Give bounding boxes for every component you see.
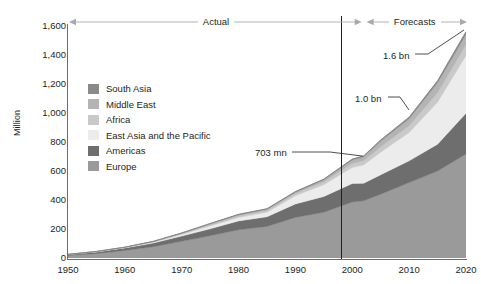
legend-item-africa: Africa	[88, 112, 211, 128]
y-tick-0: 0	[22, 253, 66, 263]
legend-label: Africa	[106, 115, 130, 125]
legend-item-east-asia-and-the-pacific: East Asia and the Pacific	[88, 128, 211, 144]
period-label-actual: Actual	[198, 12, 234, 32]
period-label-forecasts: Forecasts	[389, 12, 441, 32]
period-band-row: ActualForecasts	[0, 12, 474, 32]
legend-item-south-asia: South Asia	[88, 81, 211, 97]
x-tick-1950: 1950	[48, 264, 88, 275]
forecast-divider-line	[341, 16, 342, 259]
x-tick-1960: 1960	[105, 264, 145, 275]
y-tick-1,000: 1,000	[22, 108, 66, 118]
legend-swatch-icon	[88, 84, 99, 94]
x-tick-1990: 1990	[275, 264, 315, 275]
legend-item-middle-east: Middle East	[88, 97, 211, 113]
x-tick-1980: 1980	[219, 264, 259, 275]
legend-label: East Asia and the Pacific	[106, 131, 211, 141]
callout-703mn: 703 mn	[255, 147, 287, 158]
x-tick-2020: 2020	[446, 264, 481, 275]
x-axis-tick-labels: 19501960197019801990200020102020	[0, 264, 474, 280]
legend-item-americas: Americas	[88, 143, 211, 159]
x-axis-line	[67, 259, 467, 260]
y-tick-600: 600	[22, 166, 66, 176]
y-tick-200: 200	[22, 224, 66, 234]
legend-swatch-icon	[88, 161, 99, 171]
callout-1-0bn: 1.0 bn	[355, 93, 381, 104]
legend-label: South Asia	[106, 84, 151, 94]
legend-label: Europe	[106, 162, 137, 172]
legend-swatch-icon	[88, 130, 99, 140]
x-tick-1970: 1970	[162, 264, 202, 275]
legend: South AsiaMiddle EastAfricaEast Asia and…	[88, 81, 211, 174]
legend-label: Americas	[106, 146, 146, 156]
legend-label: Middle East	[106, 100, 156, 110]
x-tick-2000: 2000	[332, 264, 372, 275]
y-axis-tick-labels: 02004006008001,0001,2001,4001,600	[16, 0, 66, 284]
legend-item-europe: Europe	[88, 159, 211, 175]
y-tick-400: 400	[22, 195, 66, 205]
legend-swatch-icon	[88, 146, 99, 156]
y-tick-1,400: 1,400	[22, 50, 66, 60]
x-tick-2010: 2010	[389, 264, 429, 275]
legend-swatch-icon	[88, 115, 99, 125]
y-tick-800: 800	[22, 137, 66, 147]
callout-1-6bn: 1.6 bn	[383, 50, 409, 61]
y-tick-1,200: 1,200	[22, 79, 66, 89]
legend-swatch-icon	[88, 99, 99, 109]
